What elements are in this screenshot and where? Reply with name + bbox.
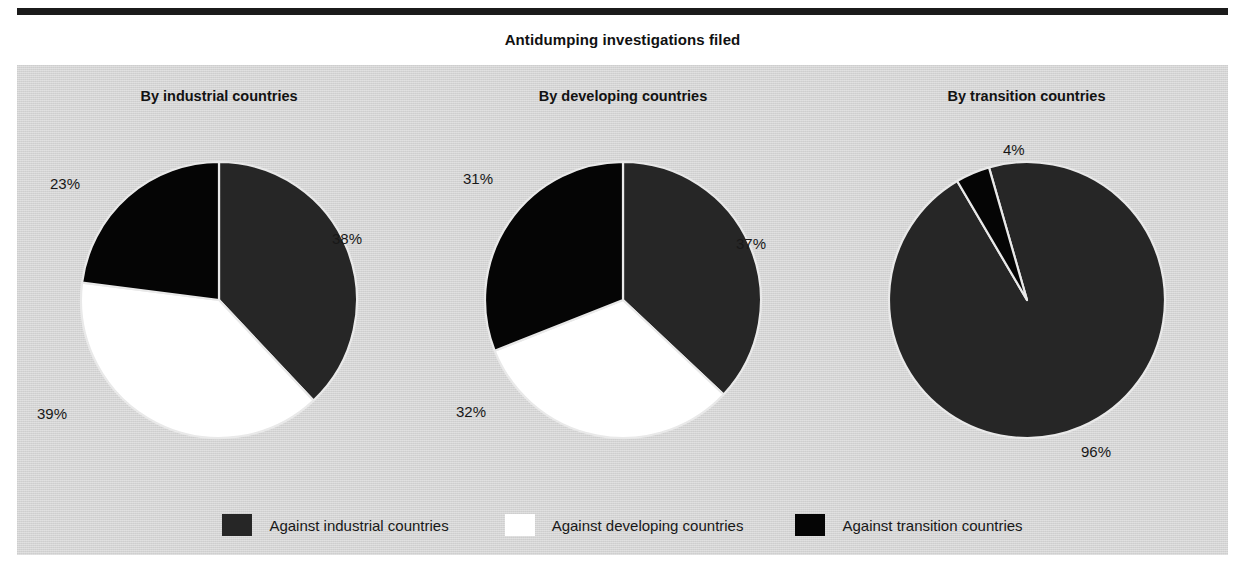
- legend-label-transition: Against transition countries: [842, 517, 1022, 534]
- legend-item-industrial: Against industrial countries: [222, 514, 448, 536]
- legend-swatch-transition: [795, 514, 825, 536]
- pie-slice-percent-label: 31%: [463, 170, 493, 187]
- pie-panel-title: By industrial countries: [17, 88, 421, 104]
- chart-panel: By industrial countries 38%39%23% By dev…: [17, 65, 1228, 555]
- pie-slice-percent-label: 38%: [332, 230, 362, 247]
- pie-slice-percent-label: 37%: [736, 235, 766, 252]
- legend-item-transition: Against transition countries: [795, 514, 1022, 536]
- pie-slice-percent-label: 39%: [37, 405, 67, 422]
- pie-panel-developing: By developing countries 37%32%31%: [421, 65, 825, 495]
- pie-slice-percent-label: 23%: [50, 175, 80, 192]
- pie-slice-percent-label: 96%: [1081, 443, 1111, 460]
- pie-panel-title: By transition countries: [825, 88, 1228, 104]
- pie-chart-transition: [887, 160, 1167, 440]
- pie-panel-title: By developing countries: [421, 88, 825, 104]
- pie-slice: [82, 162, 219, 300]
- legend-label-developing: Against developing countries: [552, 517, 744, 534]
- legend-label-industrial: Against industrial countries: [269, 517, 448, 534]
- pie-panel-transition: By transition countries 96%4%: [825, 65, 1228, 495]
- pie-chart-developing: [483, 160, 763, 440]
- pie-slice-percent-label: 32%: [456, 403, 486, 420]
- figure-root: Antidumping investigations filed By indu…: [0, 0, 1246, 578]
- legend-swatch-industrial: [222, 514, 252, 536]
- chart-legend: Against industrial countries Against dev…: [17, 503, 1228, 547]
- pie-chart-industrial: [79, 160, 359, 440]
- pie-slice-percent-label: 4%: [1003, 141, 1025, 158]
- figure-title: Antidumping investigations filed: [17, 31, 1228, 48]
- pie-panel-industrial: By industrial countries 38%39%23%: [17, 65, 421, 495]
- legend-swatch-developing: [505, 514, 535, 536]
- legend-item-developing: Against developing countries: [505, 514, 744, 536]
- top-rule-divider: [17, 8, 1228, 15]
